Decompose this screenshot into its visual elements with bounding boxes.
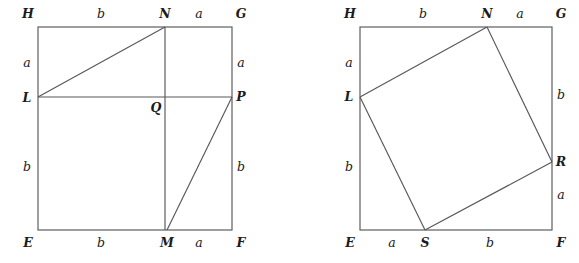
- vertex-label-E-right: E: [345, 237, 355, 250]
- vertex-label-L-right: L: [345, 91, 354, 104]
- segment-label-PF-b: b: [237, 161, 245, 174]
- outer-square-EFGH-left: [38, 27, 232, 230]
- vertex-label-P: P: [236, 91, 245, 104]
- segment-label-HN-b-right: b: [419, 8, 427, 21]
- vertex-label-N-right: N: [481, 8, 492, 21]
- vertex-label-G-right: G: [556, 8, 567, 21]
- vertex-label-R-right: R: [556, 156, 566, 169]
- segment-label-SF-b-right: b: [486, 237, 494, 250]
- segment-RS-tilted-square-side: [425, 162, 552, 230]
- vertex-label-N: N: [159, 8, 170, 21]
- vertex-label-F-right: F: [557, 237, 566, 250]
- segment-label-LE-b: b: [23, 161, 31, 174]
- segment-label-EM-b: b: [97, 237, 105, 250]
- segment-label-GR-b-right: b: [557, 89, 565, 102]
- segment-label-HL-a: a: [23, 57, 30, 70]
- vertex-label-H-right: H: [344, 8, 356, 21]
- segment-label-HL-a-right: a: [345, 57, 352, 70]
- vertex-label-M: M: [160, 237, 174, 250]
- right-diagram-geometry: [360, 27, 552, 230]
- segment-LN-tilted-square-side: [360, 27, 487, 97]
- segment-label-NG-a: a: [195, 8, 202, 21]
- vertex-label-S-right: S: [420, 237, 429, 250]
- segment-label-NG-a-right: a: [516, 8, 523, 21]
- left-diagram-geometry: [38, 27, 232, 230]
- segment-label-RF-a-right: a: [557, 189, 564, 202]
- segment-label-HN-b: b: [97, 8, 105, 21]
- vertex-label-E: E: [23, 237, 33, 250]
- segment-label-LE-b-right: b: [345, 161, 353, 174]
- segment-LN-hypotenuse: [38, 27, 165, 97]
- vertex-label-Q: Q: [151, 102, 162, 115]
- segment-label-MF-a: a: [195, 237, 202, 250]
- vertex-label-G: G: [236, 8, 247, 21]
- segment-NR-tilted-square-side: [487, 27, 552, 162]
- vertex-label-H: H: [22, 8, 34, 21]
- diagram-canvas: [0, 0, 579, 263]
- outer-square-EFGH-right: [360, 27, 552, 230]
- vertex-label-F: F: [237, 237, 246, 250]
- segment-label-ES-a-right: a: [388, 237, 395, 250]
- vertex-label-L: L: [23, 92, 32, 105]
- segment-SL-tilted-square-side: [360, 97, 425, 230]
- geometry-figure: H N G L Q P E M F b a a a b b b a H N G …: [0, 0, 579, 263]
- segment-MP-hypotenuse: [167, 97, 232, 230]
- segment-label-GP-a: a: [237, 57, 244, 70]
